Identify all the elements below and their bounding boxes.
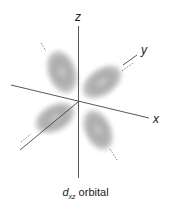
dash-ul [41, 43, 46, 51]
dash-ll [21, 134, 31, 142]
z-axis-label: z [75, 10, 81, 24]
lobe-upper-right [73, 55, 131, 108]
lobe-lower-right [74, 102, 121, 158]
caption-subscript: xz [69, 193, 76, 200]
lobe-lower-left [27, 93, 83, 142]
y-axis-label: y [141, 43, 147, 57]
orbital-diagram [0, 0, 171, 206]
dash-lr [110, 149, 117, 160]
y-axis-back [123, 55, 137, 65]
diagram-caption: dxz orbital [0, 186, 171, 200]
x-axis-label: x [153, 112, 159, 126]
caption-text: orbital [79, 186, 109, 198]
